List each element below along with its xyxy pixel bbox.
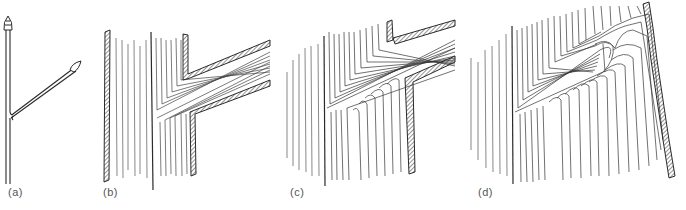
panel-label-a: (a) bbox=[8, 186, 23, 198]
terminal-bud-icon bbox=[4, 16, 12, 30]
panel-d: (d) bbox=[465, 0, 686, 210]
panel-c: (c) bbox=[275, 0, 465, 210]
panel-label-c: (c) bbox=[290, 186, 304, 198]
twig-illustration bbox=[0, 0, 95, 210]
branch-junction-b bbox=[95, 0, 275, 210]
overgrown-knot-d bbox=[465, 0, 686, 210]
panel-label-d: (d) bbox=[478, 186, 493, 198]
panel-b: (b) bbox=[95, 0, 275, 210]
lateral-bud-icon bbox=[70, 61, 81, 72]
branch-junction-c bbox=[275, 0, 465, 210]
panel-label-b: (b) bbox=[103, 186, 118, 198]
panel-a: (a) bbox=[0, 0, 95, 210]
